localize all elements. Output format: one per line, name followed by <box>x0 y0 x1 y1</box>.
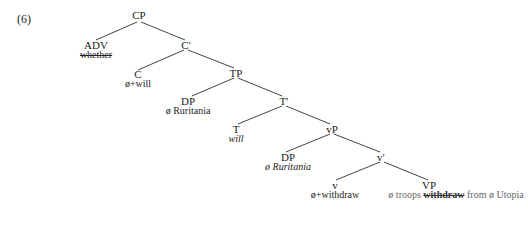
node-word: ø+withdraw <box>311 190 359 200</box>
node-word: will <box>228 134 243 144</box>
node-cbar: C′ <box>181 40 191 50</box>
edge-tp-tbar <box>238 78 282 96</box>
edge-vbar-v <box>336 162 380 180</box>
edge-cp-adv <box>96 22 137 40</box>
edge-cp-cbar <box>141 22 185 40</box>
vp-word-part-3: from ø Utopia <box>464 189 523 200</box>
node-cp: CP <box>132 10 145 20</box>
edge-cbar-c <box>138 50 184 70</box>
node-word: ø+will <box>125 79 151 89</box>
node-label: T′ <box>279 96 288 106</box>
node-word: ø Ruritania <box>265 162 311 172</box>
node-tbar: T′ <box>279 96 288 106</box>
node-word: whether <box>80 50 112 60</box>
node-vp-little: vP <box>326 124 338 134</box>
node-label: TP <box>230 68 243 78</box>
node-label: C′ <box>181 40 191 50</box>
node-dp-1: DP ø Ruritania <box>166 96 211 116</box>
node-t: T will <box>228 124 243 144</box>
node-adv: ADV whether <box>80 40 112 60</box>
vp-word-withdraw: withdraw <box>423 189 464 200</box>
edge-tbar-t <box>238 106 282 124</box>
node-label: v′ <box>377 152 385 162</box>
node-c: C ø+will <box>125 69 151 89</box>
vp-word-part-1: ø troops <box>388 189 423 200</box>
edge-vbar-vp <box>384 162 428 180</box>
edge-tbar-vp <box>286 106 330 124</box>
node-dp-2: DP ø Ruritania <box>265 152 311 172</box>
node-word: ø Ruritania <box>166 106 211 116</box>
node-label: CP <box>132 10 145 20</box>
node-label: vP <box>326 124 338 134</box>
node-tp: TP <box>230 68 243 78</box>
node-vp-word: ø troops withdraw from ø Utopia <box>388 190 523 200</box>
node-vbar: v′ <box>377 152 385 162</box>
edge-cbar-tp <box>188 50 234 68</box>
edge-vp-vbar <box>334 134 380 152</box>
node-v: v ø+withdraw <box>311 180 359 200</box>
edge-vp-dp <box>286 134 330 152</box>
edge-tp-dp <box>192 78 234 96</box>
